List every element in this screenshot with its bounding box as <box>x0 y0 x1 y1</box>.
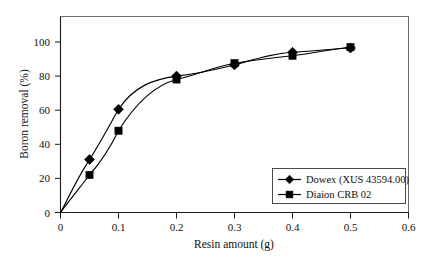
legend-label-diaion: Diaion CRB 02 <box>306 189 371 200</box>
y-tick-label-40: 40 <box>39 138 51 150</box>
square-marker-icon <box>286 191 293 198</box>
y-axis-title: Boron removal (%) <box>18 69 31 159</box>
x-tick-label-0.5: 0.5 <box>344 221 358 233</box>
x-tick-label-0.3: 0.3 <box>228 221 242 233</box>
legend-label-dowex: Dowex (XUS 43594.00) <box>306 174 409 186</box>
x-tick-label-0: 0 <box>58 221 64 233</box>
data-point-diaion-0.05 <box>86 171 93 178</box>
x-tick-label-0.6: 0.6 <box>402 221 416 233</box>
y-tick-label-80: 80 <box>39 70 51 82</box>
chart-legend: Dowex (XUS 43594.00) Diaion CRB 02 <box>273 169 410 204</box>
data-point-diaion-0.4 <box>289 52 296 59</box>
x-tick-label-0.4: 0.4 <box>286 221 300 233</box>
data-point-diaion-0.5 <box>347 44 354 51</box>
chart-figure: 0 20 40 60 80 100 0 0.1 0.2 0.3 0.4 0.5 … <box>0 0 432 257</box>
data-point-diaion-0.1 <box>115 127 122 134</box>
data-point-diaion-0.2 <box>173 76 180 83</box>
x-axis-title: Resin amount (g) <box>194 238 274 251</box>
x-tick-label-0.1: 0.1 <box>112 221 126 233</box>
y-tick-label-60: 60 <box>39 104 51 116</box>
y-tick-label-0: 0 <box>45 207 51 219</box>
data-point-diaion-0.3 <box>231 60 238 67</box>
x-tick-label-0.2: 0.2 <box>170 221 184 233</box>
y-tick-label-100: 100 <box>34 36 51 48</box>
boron-removal-line-chart: 0 20 40 60 80 100 0 0.1 0.2 0.3 0.4 0.5 … <box>0 0 432 257</box>
y-tick-label-20: 20 <box>39 172 51 184</box>
